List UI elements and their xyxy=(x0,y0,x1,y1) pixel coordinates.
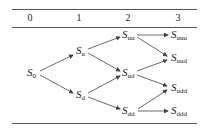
node-s0: S0 xyxy=(27,67,36,80)
edge-sud-sudd xyxy=(137,75,167,86)
edge-suu-suud xyxy=(137,37,167,56)
edge-su-sud xyxy=(88,53,120,71)
node-sud: Sud xyxy=(122,67,135,80)
node-sddd: Sddd xyxy=(171,105,187,118)
node-sudd: Sudd xyxy=(171,82,187,95)
edge-sd-sud xyxy=(88,76,120,93)
edge-su-suu xyxy=(88,37,120,49)
node-suu: Suu xyxy=(122,29,135,42)
node-sd: Sd xyxy=(76,89,85,102)
node-suud: Suud xyxy=(171,52,187,65)
edge-s0-su xyxy=(40,55,73,71)
edge-s0-sd xyxy=(40,75,73,93)
node-suuu: Suuu xyxy=(171,29,187,42)
edge-sd-sdd xyxy=(88,97,120,109)
edge-sdd-sudd xyxy=(138,90,167,109)
edge-sud-suud xyxy=(137,60,167,71)
node-sdd: Sdd xyxy=(122,105,135,118)
node-su: Su xyxy=(76,45,85,58)
